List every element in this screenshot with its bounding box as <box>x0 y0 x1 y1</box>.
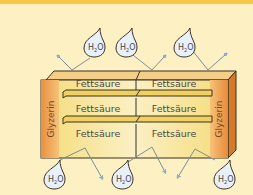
glycerin-left-label: Glyzerin <box>46 101 56 138</box>
fatty-acid-1-right: Fettsäure <box>152 78 197 89</box>
block-top-face <box>46 71 236 80</box>
glycerin-left: Glyzerin <box>41 80 59 158</box>
fatty-acid-3-right: Fettsäure <box>152 128 197 139</box>
block-side-face <box>228 71 236 158</box>
water-drop-bottom-2: H2O <box>112 160 133 189</box>
fatty-acid-3-left: Fettsäure <box>76 128 121 139</box>
water-drop-top-3: H2O <box>174 28 195 57</box>
top-arrows <box>58 48 226 70</box>
glycerin-right: Glyzerin <box>210 80 228 158</box>
glycerin-right-label: Glyzerin <box>214 101 224 138</box>
fat-hydrolysis-diagram: Glyzerin Glyzerin Fettsäure Fettsäure Fe… <box>0 0 253 195</box>
fatty-acid-1-left: Fettsäure <box>76 78 121 89</box>
water-drop-top-1: H2O <box>84 28 105 57</box>
water-drop-bottom-1: H2O <box>44 160 65 189</box>
water-drop-bottom-3: H2O <box>214 160 235 189</box>
water-drop-top-2: H2O <box>116 28 137 57</box>
fatty-acid-2-right: Fettsäure <box>152 103 197 114</box>
fatty-acid-2-left: Fettsäure <box>76 103 121 114</box>
